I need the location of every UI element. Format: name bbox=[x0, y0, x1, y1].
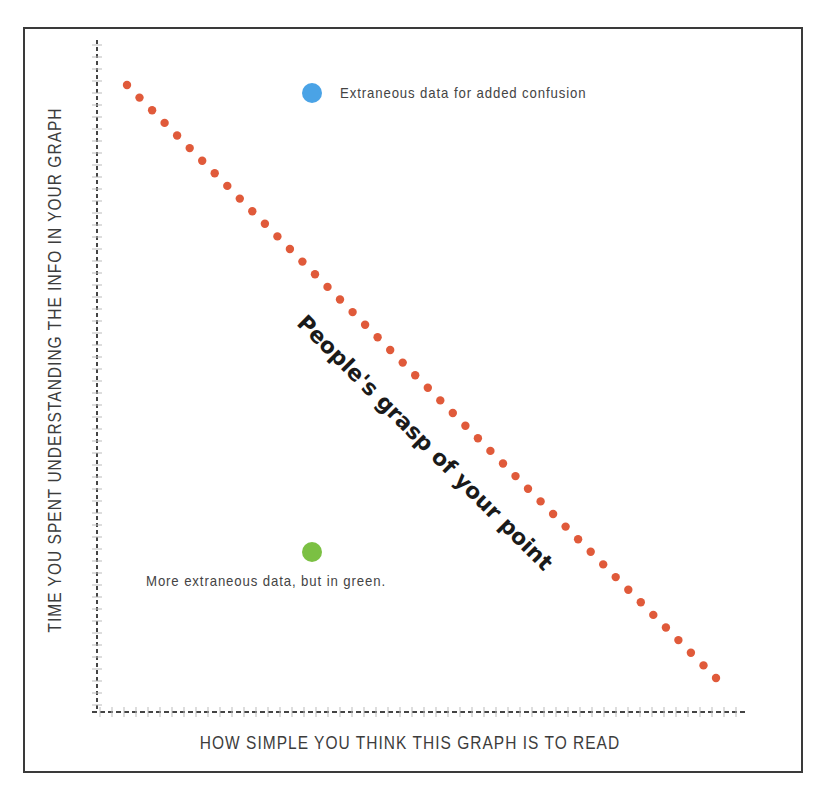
cut-off-caption bbox=[15, 790, 805, 801]
line-dot bbox=[373, 333, 381, 341]
line-dot bbox=[399, 358, 407, 366]
line-dot bbox=[160, 119, 168, 127]
line-dot bbox=[624, 586, 632, 594]
line-dot bbox=[135, 93, 143, 101]
green-point-label: More extraneous data, but in green. bbox=[146, 572, 386, 589]
line-dot bbox=[612, 573, 620, 581]
line-dot bbox=[599, 560, 607, 568]
line-dot bbox=[687, 649, 695, 657]
line-dot bbox=[186, 144, 194, 152]
y-axis-label: TIME YOU SPENT UNDERSTANDING THE INFO IN… bbox=[45, 86, 66, 654]
line-dot bbox=[499, 459, 507, 467]
line-dot bbox=[361, 321, 369, 329]
line-dot bbox=[386, 346, 394, 354]
line-dot bbox=[424, 384, 432, 392]
line-dot bbox=[524, 485, 532, 493]
line-dot bbox=[298, 257, 306, 265]
line-dot bbox=[549, 510, 557, 518]
line-dot bbox=[649, 611, 657, 619]
line-dot bbox=[148, 106, 156, 114]
line-dot bbox=[248, 207, 256, 215]
line-dot bbox=[587, 548, 595, 556]
line-dot bbox=[712, 674, 720, 682]
line-dot bbox=[449, 409, 457, 417]
line-dot bbox=[223, 182, 231, 190]
line-dot bbox=[261, 220, 269, 228]
line-dot bbox=[662, 623, 670, 631]
line-dot bbox=[236, 194, 244, 202]
line-dot bbox=[561, 522, 569, 530]
line-dot bbox=[173, 131, 181, 139]
blue-point-label: Extraneous data for added confusion bbox=[340, 84, 587, 101]
blue-data-point bbox=[302, 83, 322, 103]
line-dot bbox=[511, 472, 519, 480]
line-dot bbox=[211, 169, 219, 177]
line-dot bbox=[198, 157, 206, 165]
line-dot bbox=[486, 447, 494, 455]
plot-area bbox=[0, 0, 817, 801]
line-dot bbox=[536, 497, 544, 505]
green-data-point bbox=[302, 542, 322, 562]
line-dot bbox=[336, 295, 344, 303]
line-dot bbox=[348, 308, 356, 316]
line-dot bbox=[123, 81, 131, 89]
grasp-dotted-line bbox=[123, 81, 720, 682]
line-dot bbox=[474, 434, 482, 442]
line-dot bbox=[411, 371, 419, 379]
x-axis-label: HOW SIMPLE YOU THINK THIS GRAPH IS TO RE… bbox=[109, 733, 711, 754]
line-dot bbox=[323, 283, 331, 291]
line-dot bbox=[674, 636, 682, 644]
line-dot bbox=[273, 232, 281, 240]
line-dot bbox=[286, 245, 294, 253]
line-dot bbox=[637, 598, 645, 606]
line-dot bbox=[574, 535, 582, 543]
line-dot bbox=[461, 422, 469, 430]
line-dot bbox=[699, 661, 707, 669]
line-dot bbox=[436, 396, 444, 404]
line-dot bbox=[311, 270, 319, 278]
